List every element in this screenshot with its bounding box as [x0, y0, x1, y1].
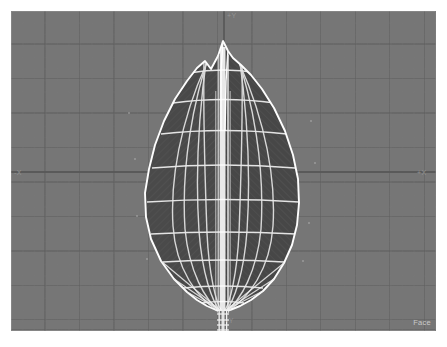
- selection-mode-label: Face: [413, 318, 431, 327]
- leaf-mesh-object[interactable]: [11, 11, 436, 331]
- axis-label-minus-y: -Y: [226, 317, 234, 325]
- 3d-viewport[interactable]: +Y -Y -X +X Face: [11, 11, 436, 331]
- axis-label-minus-x: -X: [14, 169, 22, 177]
- axis-label-plus-y: +Y: [227, 12, 236, 20]
- axis-label-plus-x: +X: [417, 169, 426, 177]
- app-root: +Y -Y -X +X Face: [0, 0, 447, 347]
